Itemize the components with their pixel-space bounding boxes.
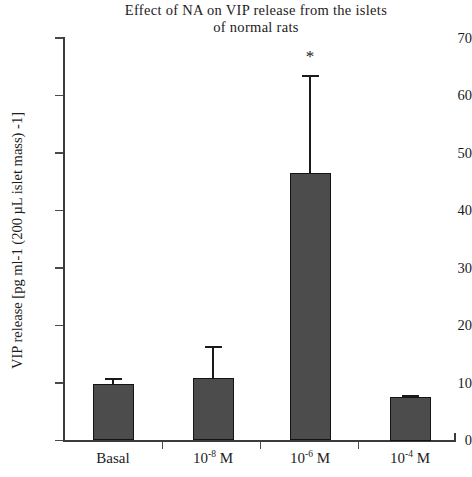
y-tick-label-60: 60 — [438, 88, 472, 103]
y-tick-label-50: 50 — [438, 146, 472, 161]
y-tick-label-40: 40 — [438, 203, 472, 218]
y-axis-line — [63, 37, 65, 441]
chart-title-line-1: Effect of NA on VIP release from the isl… — [70, 2, 442, 19]
error-bar-stem-2 — [309, 75, 311, 173]
y-tick-20 — [55, 325, 63, 327]
error-bar-stem-1 — [212, 346, 214, 378]
error-bar-cap-0 — [105, 378, 122, 380]
error-bar-cap-3 — [402, 395, 419, 397]
y-tick-label-20: 20 — [438, 318, 472, 333]
bar-2 — [290, 173, 331, 441]
significance-marker-2: * — [290, 48, 330, 65]
y-tick-label-70: 70 — [438, 31, 472, 46]
y-tick-40 — [55, 210, 63, 212]
error-bar-cap-1 — [205, 346, 222, 348]
y-tick-60 — [55, 95, 63, 97]
x-tick-2 — [260, 441, 262, 449]
bar-3 — [390, 397, 431, 440]
y-tick-10 — [55, 382, 63, 384]
bar-0 — [93, 384, 134, 440]
chart-title-line-2: of normal rats — [70, 19, 442, 36]
y-tick-70 — [55, 37, 63, 39]
chart-figure: Effect of NA on VIP release from the isl… — [0, 0, 472, 477]
y-tick-label-10: 10 — [438, 376, 472, 391]
x-tick-1 — [162, 441, 164, 449]
y-tick-label-0: 0 — [438, 433, 472, 448]
bar-1 — [193, 378, 234, 440]
x-tick-3 — [358, 441, 360, 449]
x-tick-label-3: 10-4 M — [350, 450, 470, 467]
chart-title: Effect of NA on VIP release from the isl… — [70, 2, 442, 36]
y-tick-label-30: 30 — [438, 261, 472, 276]
error-bar-cap-2 — [302, 75, 319, 77]
y-axis-title: VIP release [pg ml-1 (200 µL islet mass)… — [9, 76, 26, 406]
y-tick-0 — [55, 440, 63, 442]
y-tick-50 — [55, 152, 63, 154]
y-tick-30 — [55, 267, 63, 269]
